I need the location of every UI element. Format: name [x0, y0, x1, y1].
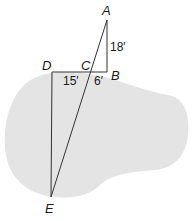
- point-label-B: B: [111, 68, 120, 83]
- point-label-D: D: [42, 58, 51, 73]
- measurement-DC: 15′: [63, 74, 79, 88]
- measurement-CB: 6′: [94, 74, 104, 88]
- point-label-E: E: [45, 201, 54, 216]
- lake-region: [5, 72, 189, 198]
- diagram-canvas: A B C D E 18′ 15′ 6′: [0, 0, 195, 221]
- point-label-A: A: [101, 3, 111, 18]
- point-label-C: C: [81, 58, 91, 73]
- measurement-AB: 18′: [110, 40, 126, 54]
